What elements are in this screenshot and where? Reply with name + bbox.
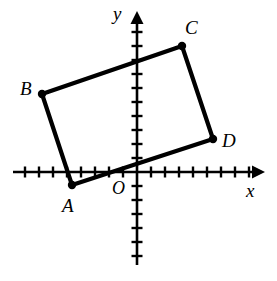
y-axis-arrow-icon xyxy=(131,11,144,24)
x-axis-label: x xyxy=(246,181,254,200)
vertex-label-c: C xyxy=(185,18,198,37)
vertex-label-d: D xyxy=(222,131,236,150)
rectangle-outline xyxy=(42,46,213,185)
rectangle-abcd xyxy=(38,42,217,189)
vertex-point-a xyxy=(68,181,76,189)
vertex-point-b xyxy=(38,90,46,98)
coordinate-figure: y x O A B C D xyxy=(0,0,277,281)
x-axis-group xyxy=(13,166,265,179)
vertex-label-a: A xyxy=(62,196,74,215)
vertex-point-d xyxy=(209,135,217,143)
y-axis-label: y xyxy=(113,4,121,23)
origin-label: O xyxy=(112,179,125,197)
vertex-point-c xyxy=(178,42,186,50)
vertex-label-b: B xyxy=(20,79,32,98)
x-axis-arrow-icon xyxy=(252,166,265,179)
